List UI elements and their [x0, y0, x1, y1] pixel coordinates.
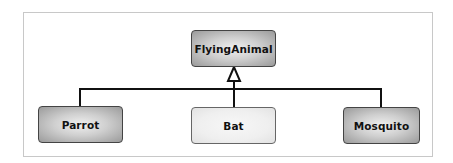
class-node-label: Parrot [62, 119, 100, 131]
class-node-mosquito[interactable]: Mosquito [343, 107, 420, 144]
class-node-label: FlyingAnimal [194, 43, 272, 55]
class-node-bat[interactable]: Bat [191, 107, 276, 144]
class-node-label: Bat [223, 120, 243, 132]
class-node-parrot[interactable]: Parrot [38, 106, 123, 143]
class-node-label: Mosquito [354, 120, 410, 132]
class-node-flyinganimal[interactable]: FlyingAnimal [191, 30, 276, 67]
generalization-arrow-icon [228, 67, 240, 81]
